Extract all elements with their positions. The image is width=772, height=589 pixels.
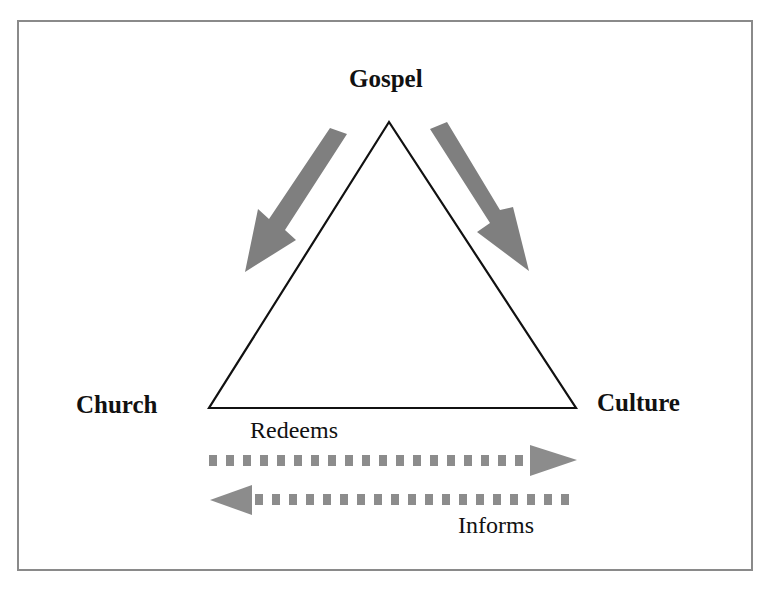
relation-label-informs: Informs: [458, 513, 534, 537]
node-label-culture: Culture: [597, 390, 680, 415]
redeems-dashed-arrow: [209, 445, 577, 476]
gospel-to-culture-arrow: [430, 122, 529, 271]
node-label-church: Church: [76, 392, 158, 417]
gospel-church-culture-triangle: [209, 122, 576, 408]
gospel-to-church-arrow: [245, 128, 347, 272]
relation-label-redeems: Redeems: [250, 418, 338, 442]
node-label-gospel: Gospel: [349, 66, 423, 91]
informs-dashed-arrow: [210, 485, 569, 515]
